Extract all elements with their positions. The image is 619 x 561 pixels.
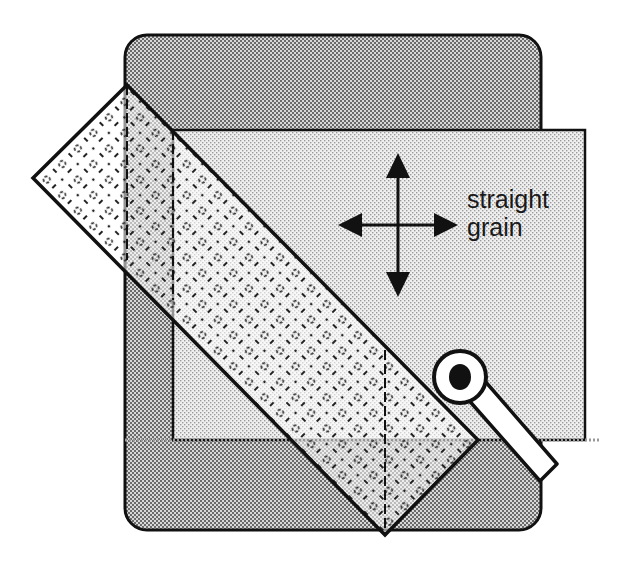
grain-label: straight grain xyxy=(467,185,549,241)
grain-label-line1: straight xyxy=(467,185,549,213)
diagram-canvas: straight grain xyxy=(0,0,619,561)
grain-label-line2: grain xyxy=(467,213,549,241)
